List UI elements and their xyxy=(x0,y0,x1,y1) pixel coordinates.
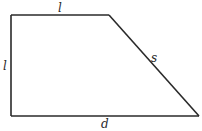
trapezoid-diagram: l l s d xyxy=(0,0,202,131)
left-side-label: l xyxy=(3,59,7,73)
bottom-side-label: d xyxy=(101,117,109,131)
top-side-label: l xyxy=(58,1,62,15)
slant-side-label: s xyxy=(151,51,157,65)
slant-side xyxy=(109,15,199,116)
